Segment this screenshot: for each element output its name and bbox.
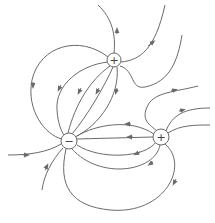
field-arrow [59, 85, 61, 89]
electric-field-diagram: + − + [0, 0, 215, 223]
field-line [57, 62, 108, 135]
field-arrow [150, 162, 153, 164]
field-line [72, 67, 113, 134]
charge-sign: + [156, 131, 165, 144]
field-line [31, 45, 108, 139]
field-line [77, 142, 156, 155]
field-arrow [45, 166, 47, 170]
field-line [77, 125, 154, 136]
field-arrow [148, 42, 153, 46]
field-line [121, 5, 165, 62]
field-line [64, 144, 175, 210]
negative-charge: − [61, 133, 77, 149]
field-arrow [174, 179, 176, 183]
field-line [168, 125, 210, 133]
field-line [145, 86, 198, 131]
field-line [72, 145, 160, 169]
right-positive-charge: + [153, 129, 169, 145]
field-line [8, 144, 61, 155]
field-arrow [97, 88, 99, 92]
field-line [77, 137, 153, 139]
field-line [68, 66, 110, 133]
top-positive-charge: + [107, 53, 121, 67]
field-line [166, 108, 210, 131]
field-line [98, 5, 114, 53]
field-arrow [79, 88, 81, 92]
field-arrow [116, 88, 117, 92]
charge-sign: − [64, 135, 73, 148]
charge-sign: + [109, 54, 118, 67]
field-arrow [179, 110, 183, 111]
